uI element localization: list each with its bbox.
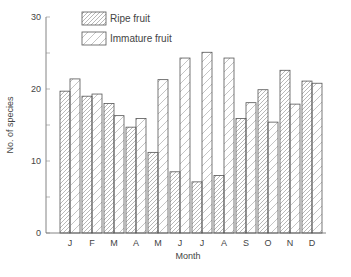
- bar-ripe: [126, 127, 136, 233]
- bars: [60, 52, 322, 233]
- x-tick-label: F: [89, 238, 95, 248]
- bar-chart: 0102030JFMAMJJASOND Ripe fruit Immature …: [0, 0, 351, 277]
- x-tick-label: M: [110, 238, 118, 248]
- x-tick-label: A: [221, 238, 227, 248]
- x-tick-label: J: [178, 238, 183, 248]
- bar-immature: [180, 58, 190, 233]
- x-tick-label: A: [133, 238, 139, 248]
- x-tick-label: D: [309, 238, 316, 248]
- x-tick-label: J: [200, 238, 205, 248]
- bar-immature: [290, 104, 300, 233]
- bar-ripe: [148, 152, 158, 233]
- x-tick-label: M: [154, 238, 162, 248]
- legend-swatch-immature: [82, 32, 106, 45]
- x-axis-title: Month: [175, 251, 200, 261]
- bar-immature: [246, 103, 256, 233]
- bar-ripe: [214, 175, 224, 233]
- y-tick-label: 0: [36, 228, 41, 238]
- bar-ripe: [192, 182, 202, 233]
- x-tick-label: N: [287, 238, 294, 248]
- legend-label-ripe: Ripe fruit: [110, 13, 150, 24]
- y-axis-title: No. of species: [5, 96, 15, 154]
- legend-swatch-ripe: [82, 12, 106, 25]
- bar-ripe: [170, 172, 180, 233]
- bar-ripe: [236, 119, 246, 233]
- bar-immature: [202, 52, 212, 233]
- bar-immature: [312, 83, 322, 233]
- y-tick-label: 10: [31, 156, 41, 166]
- x-tick-label: J: [68, 238, 73, 248]
- bar-ripe: [60, 91, 70, 233]
- bar-ripe: [302, 81, 312, 233]
- bar-immature: [136, 119, 146, 233]
- bar-immature: [70, 79, 80, 233]
- legend: Ripe fruit Immature fruit: [82, 12, 172, 45]
- x-tick-label: S: [243, 238, 249, 248]
- legend-label-immature: Immature fruit: [110, 33, 172, 44]
- bar-immature: [92, 94, 102, 233]
- bar-ripe: [104, 103, 114, 233]
- bar-ripe: [82, 96, 92, 233]
- bar-immature: [114, 116, 124, 233]
- bar-ripe: [280, 70, 290, 233]
- bar-ripe: [258, 90, 268, 233]
- bar-immature: [268, 122, 278, 233]
- bar-immature: [224, 58, 234, 233]
- bar-immature: [158, 80, 168, 233]
- y-tick-label: 30: [31, 12, 41, 22]
- x-tick-label: O: [264, 238, 271, 248]
- y-tick-label: 20: [31, 84, 41, 94]
